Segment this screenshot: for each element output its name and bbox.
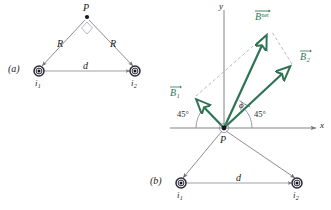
radius-right-line-b — [226, 131, 295, 178]
wire-marker-i1-b — [176, 178, 186, 188]
point-label-p-b: P — [220, 135, 226, 145]
vector-label-bnet: Bnet — [255, 12, 269, 22]
angle-label-left: 45° — [177, 110, 189, 119]
distance-label-b: d — [236, 173, 241, 183]
vector-label-b2: B2 — [300, 52, 310, 64]
radius-left-line — [42, 20, 85, 66]
current-sub-i2-a: 2 — [134, 83, 137, 89]
point-p-dot-b — [222, 126, 227, 131]
current-label-i1-a: i1 — [35, 79, 41, 89]
angle-label-right: 45° — [254, 110, 266, 119]
point-p-dot-a — [85, 15, 89, 19]
right-angle-marker — [82, 22, 93, 34]
axis-label-x: x — [320, 121, 324, 130]
current-sub-i2-b: 2 — [296, 195, 299, 201]
parallelogram-dashed-left — [196, 33, 268, 96]
current-label-i1-b: i1 — [177, 191, 183, 201]
angle-label-phi: ϕ — [239, 101, 244, 110]
axis-label-y: y — [219, 2, 223, 11]
vector-label-b2-wrap: B2 — [300, 52, 310, 64]
vector-sub-b1: 1 — [176, 92, 179, 99]
angle-arc-left — [196, 108, 204, 128]
current-sub-i1-a: 1 — [38, 83, 41, 89]
angle-arc-right — [244, 108, 252, 128]
vector-arrow-b2-icon — [300, 49, 312, 53]
vector-label-b1-wrap: B1 — [170, 88, 180, 100]
vector-arrow-bnet-icon — [255, 9, 271, 13]
distance-label-a: d — [83, 61, 88, 71]
physics-figure: (a) P R R d i1 i2 (b) y x P 45° 45° ϕ d … — [0, 0, 331, 210]
current-sub-i1-b: 1 — [180, 195, 183, 201]
radius-left-line-b — [183, 131, 222, 178]
vector-label-bnet-wrap: Bnet — [255, 12, 269, 22]
vector-sub-b2: 2 — [306, 56, 309, 63]
radius-label-right-a: R — [110, 39, 116, 49]
point-label-p-a: P — [83, 3, 89, 13]
panel-b-graphics — [170, 10, 316, 188]
wire-marker-i2-b — [292, 178, 302, 188]
wire-marker-i1-a — [34, 66, 44, 76]
wire-marker-i2-a — [130, 66, 140, 76]
vector-label-b1: B1 — [170, 88, 180, 100]
vector-b1-line — [197, 100, 225, 129]
radius-label-left-a: R — [57, 39, 63, 49]
panel-label-a: (a) — [8, 64, 20, 74]
parallelogram-dashed-right — [272, 32, 292, 64]
current-label-i2-a: i2 — [131, 79, 137, 89]
vector-sup-bnet: net — [261, 12, 268, 18]
panel-label-b: (b) — [150, 176, 162, 186]
figure-canvas — [0, 0, 331, 210]
vector-arrow-b1-icon — [170, 85, 182, 89]
current-label-i2-b: i2 — [293, 191, 299, 201]
